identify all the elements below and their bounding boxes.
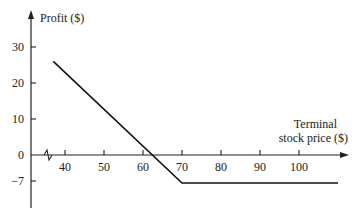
x-tick-label: 90	[254, 160, 266, 174]
y-axis-arrow-icon	[28, 10, 34, 19]
payoff-chart: Profit ($) Terminal stock price ($) 3020…	[0, 0, 359, 216]
y-tick-label: −7	[11, 174, 24, 188]
y-tick-label: 30	[12, 40, 24, 54]
x-ticks: 405060708090100	[59, 150, 308, 174]
x-axis-label-line1: Terminal	[294, 117, 338, 131]
y-tick-label: 20	[12, 76, 24, 90]
x-tick-label: 100	[290, 160, 308, 174]
y-tick-label: 0	[18, 148, 24, 162]
x-axis-arrow-icon	[340, 152, 349, 158]
x-tick-label: 40	[59, 160, 71, 174]
y-ticks: 3020100−7	[11, 40, 36, 188]
x-tick-label: 50	[98, 160, 110, 174]
x-axis-label-line2: stock price ($)	[279, 131, 348, 145]
y-tick-label: 10	[12, 112, 24, 126]
x-tick-label: 60	[137, 160, 149, 174]
x-tick-label: 80	[215, 160, 227, 174]
x-tick-label: 70	[176, 160, 188, 174]
y-axis-label: Profit ($)	[40, 11, 84, 25]
